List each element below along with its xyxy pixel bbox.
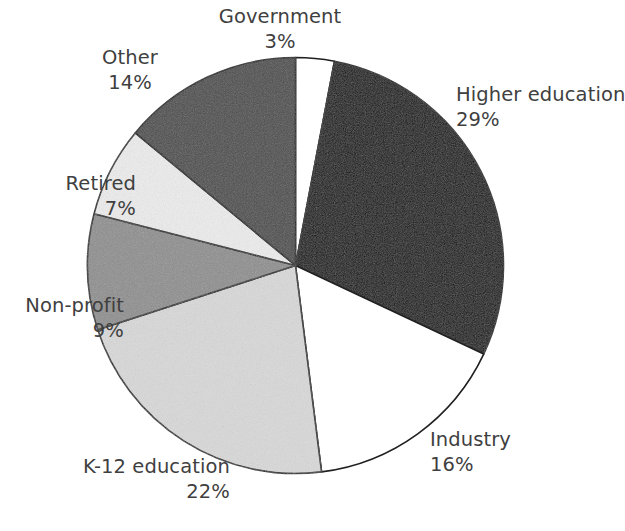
slice-label-retired-value: 7%: [0, 197, 136, 222]
slice-label-higher-education-name: Higher education: [456, 83, 606, 108]
slice-label-k12-education-name: K-12 education: [30, 455, 230, 480]
slice-label-industry-name: Industry: [430, 428, 580, 453]
slice-label-retired-name: Retired: [0, 172, 136, 197]
slice-label-other-name: Other: [60, 46, 200, 71]
slice-label-industry-value: 16%: [430, 453, 580, 478]
slice-label-higher-education: Higher education 29%: [456, 83, 606, 133]
slice-label-government-value: 3%: [200, 30, 360, 55]
slice-label-higher-education-value: 29%: [456, 108, 606, 133]
slice-label-non-profit-name: Non-profit: [0, 294, 124, 319]
slice-label-government-name: Government: [200, 5, 360, 30]
slice-label-non-profit-value: 9%: [0, 319, 124, 344]
slice-label-non-profit: Non-profit 9%: [0, 294, 124, 344]
slice-label-government: Government 3%: [200, 5, 360, 55]
slice-label-other-value: 14%: [60, 71, 200, 96]
slice-label-k12-education: K-12 education 22%: [30, 455, 230, 505]
slice-label-industry: Industry 16%: [430, 428, 580, 478]
slice-label-other: Other 14%: [60, 46, 200, 96]
slice-label-retired: Retired 7%: [0, 172, 136, 222]
slice-label-k12-education-value: 22%: [30, 480, 230, 505]
